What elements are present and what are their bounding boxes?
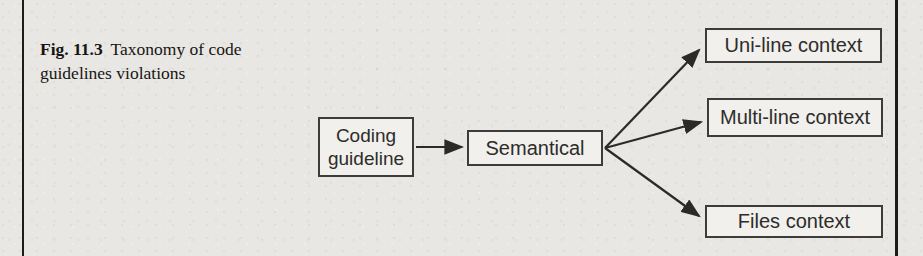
edge-semantical-to-files [605,148,699,216]
node-semantical-label: Semantical [486,136,585,160]
node-multi-line-context: Multi-line context [707,98,883,137]
figure-number-label: Fig. 11.3 [40,39,103,59]
node-files-context: Files context [705,205,883,238]
figure-panel: Fig. 11.3Taxonomy of code guidelines vio… [0,0,923,256]
node-coding-guideline: Coding guideline [318,117,414,177]
frame-rule-left [22,0,24,256]
node-uni-line-context: Uni-line context [705,28,882,63]
node-files-context-label: Files context [738,209,850,233]
node-uni-line-context-label: Uni-line context [725,33,863,57]
figure-caption: Fig. 11.3Taxonomy of code guidelines vio… [40,37,280,85]
node-coding-guideline-label: Coding guideline [320,124,412,170]
edge-semantical-to-multiline [605,122,701,148]
node-multi-line-context-label: Multi-line context [720,105,870,129]
frame-rule-right [895,0,898,256]
node-semantical: Semantical [467,130,603,166]
edge-semantical-to-uniline [605,50,699,148]
